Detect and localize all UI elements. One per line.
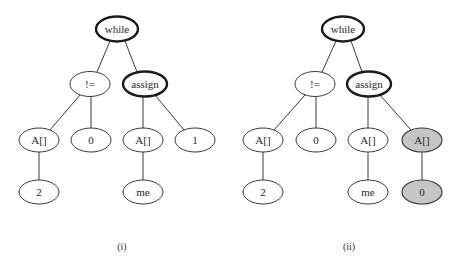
node-label: while: [331, 23, 356, 35]
node-label: while: [105, 23, 130, 35]
node-label: A[]: [255, 134, 270, 146]
node-label: 0: [88, 134, 94, 146]
node-label: A[]: [31, 134, 46, 146]
node-one: 1: [175, 128, 215, 152]
edges: [39, 41, 184, 180]
panel-ii: while != assign A[] 0 A[] A[] 2: [243, 17, 442, 253]
node-two: 2: [243, 180, 283, 204]
node-label: me: [361, 186, 375, 198]
node-label: assign: [131, 78, 159, 90]
node-me: me: [348, 180, 388, 204]
node-not-equal: !=: [295, 72, 335, 97]
node-while: while: [322, 17, 364, 42]
node-label: me: [136, 186, 150, 198]
node-label: A[]: [360, 134, 375, 146]
node-array-access-right: A[]: [123, 128, 163, 152]
node-label: 1: [192, 134, 198, 146]
node-label: A[]: [414, 134, 429, 146]
node-zero-highlighted: 0: [402, 180, 442, 204]
node-while: while: [96, 17, 138, 42]
node-label: 2: [260, 186, 266, 198]
node-label: A[]: [135, 134, 150, 146]
node-label: 2: [36, 186, 42, 198]
node-not-equal: !=: [70, 72, 110, 97]
node-array-access-left: A[]: [243, 128, 283, 152]
caption-i: (i): [117, 241, 126, 253]
caption-ii: (ii): [343, 241, 355, 253]
node-assign: assign: [123, 72, 167, 97]
node-label: !=: [85, 78, 95, 90]
node-label: assign: [355, 78, 383, 90]
node-zero: 0: [71, 128, 111, 152]
node-array-access-left: A[]: [19, 128, 59, 152]
node-zero: 0: [296, 128, 336, 152]
node-array-access-middle: A[]: [348, 128, 388, 152]
ast-figure: while != assign A[] 0 A[] 1 2: [0, 0, 460, 264]
node-label: !=: [310, 78, 320, 90]
node-two: 2: [19, 180, 59, 204]
panel-i: while != assign A[] 0 A[] 1 2: [19, 17, 215, 253]
node-label: 0: [313, 134, 319, 146]
node-label: 0: [419, 186, 425, 198]
edges: [263, 41, 422, 180]
node-me: me: [123, 180, 163, 204]
node-array-access-highlighted: A[]: [402, 128, 442, 152]
node-assign: assign: [347, 72, 391, 97]
